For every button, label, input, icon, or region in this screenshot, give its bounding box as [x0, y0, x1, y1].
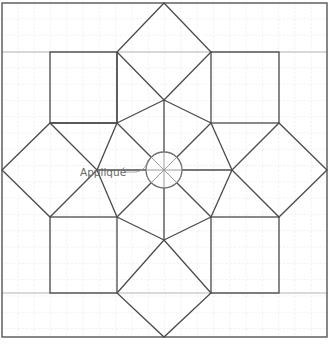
- quilt-block-diagram: Appliqué: [0, 0, 328, 353]
- applique-label: Appliqué: [80, 166, 126, 178]
